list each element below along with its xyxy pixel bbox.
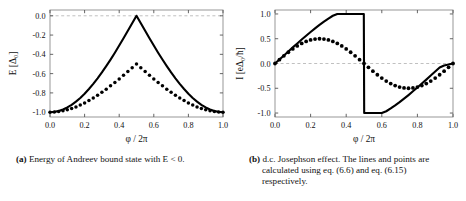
data-point [282, 54, 286, 58]
data-point [335, 42, 339, 46]
data-point [407, 86, 411, 90]
data-point [213, 110, 217, 114]
data-point [122, 74, 126, 78]
data-point [340, 44, 344, 48]
data-point [191, 103, 195, 107]
data-point [433, 76, 437, 80]
captions-row: (a) Energy of Andreev bound state with E… [0, 150, 466, 201]
data-point [367, 65, 371, 69]
data-point [200, 107, 204, 111]
x-tick-label: 1.0 [448, 121, 458, 130]
x-tick-label: 0.8 [412, 121, 422, 130]
x-tick-label: 0.2 [305, 121, 315, 130]
caption-a: (a) Energy of Andreev bound state with E… [0, 150, 233, 201]
data-point [148, 74, 152, 78]
data-point [165, 87, 169, 91]
series-dotted-points [48, 62, 225, 114]
data-point [331, 40, 335, 44]
data-point [278, 58, 282, 62]
data-point [304, 40, 308, 44]
y-tick-label: -1.0 [33, 108, 46, 117]
data-point [349, 50, 353, 54]
data-point [143, 70, 147, 74]
x-axis-title: φ / 2π [353, 134, 375, 144]
figure-container: 0.00.20.40.60.81.00.0-0.2-0.4-0.6-0.8-1.… [0, 0, 466, 201]
data-point [221, 110, 225, 114]
data-point [83, 101, 87, 105]
data-point [79, 103, 83, 107]
y-axis-title: E [Δ₀] [8, 52, 18, 76]
data-point [451, 62, 455, 66]
data-point [156, 81, 160, 85]
data-point [344, 47, 348, 51]
data-point [53, 110, 57, 114]
data-point [109, 84, 113, 88]
data-point [322, 37, 326, 41]
y-axis-title: I [eΔ₀/ħ] [235, 47, 245, 79]
caption-a-text: Energy of Andreev bound state with E < 0… [29, 154, 185, 164]
data-point [318, 37, 322, 41]
data-point [187, 101, 191, 105]
plot-panels: 0.00.20.40.60.81.00.0-0.2-0.4-0.6-0.8-1.… [0, 0, 466, 150]
x-tick-label: 0.0 [270, 121, 280, 130]
andreev-energy-chart: 0.00.20.40.60.81.00.0-0.2-0.4-0.6-0.8-1.… [0, 0, 233, 150]
x-axis-title: φ / 2π [125, 134, 147, 144]
x-tick-label: 0.4 [341, 121, 351, 130]
caption-b: (b) d.c. Josephson effect. The lines and… [233, 150, 466, 201]
x-tick-label: 0.4 [114, 121, 124, 130]
x-tick-label: 0.6 [377, 121, 387, 130]
data-point [375, 73, 379, 77]
y-tick-label: 0.0 [35, 12, 45, 21]
x-tick-label: 0.0 [45, 121, 55, 130]
panel-b-current-plot: 0.00.20.40.60.81.01.00.50.0-0.5-1.0φ / 2… [233, 0, 466, 150]
data-point [429, 79, 433, 83]
data-point [195, 105, 199, 109]
data-point [273, 62, 277, 66]
data-point [380, 76, 384, 80]
data-point [100, 91, 104, 95]
caption-b-text: d.c. Josephson effect. The lines and poi… [262, 154, 429, 186]
y-tick-label: 0.5 [260, 35, 270, 44]
josephson-current-chart: 0.00.20.40.60.81.01.00.50.0-0.5-1.0φ / 2… [233, 0, 466, 150]
data-point [295, 44, 299, 48]
x-tick-label: 0.8 [183, 121, 193, 130]
y-tick-label: -0.8 [33, 89, 46, 98]
data-point [48, 110, 52, 114]
caption-a-label: (a) [16, 154, 27, 164]
data-point [204, 108, 208, 112]
data-point [447, 65, 451, 69]
data-point [309, 38, 313, 42]
x-tick-label: 1.0 [218, 121, 228, 130]
data-point [442, 69, 446, 73]
data-point [313, 37, 317, 41]
data-point [61, 109, 64, 113]
data-point [389, 82, 393, 86]
data-point [420, 84, 424, 88]
data-point [353, 54, 357, 58]
data-point [438, 73, 442, 77]
data-point [161, 84, 165, 88]
data-point [371, 69, 375, 73]
data-point [398, 85, 402, 89]
data-point [411, 86, 415, 90]
data-point [96, 94, 100, 98]
y-tick-label: 0.0 [260, 60, 270, 69]
data-point [393, 84, 397, 88]
data-point [66, 108, 70, 112]
data-point [300, 42, 304, 46]
data-point [182, 99, 186, 103]
data-point [92, 96, 96, 100]
data-point [178, 96, 182, 100]
data-point [402, 86, 406, 90]
data-point [169, 91, 173, 95]
data-point [74, 105, 78, 109]
data-point [208, 109, 212, 113]
data-point [416, 85, 420, 89]
data-point [217, 110, 221, 114]
data-point [424, 82, 428, 86]
y-tick-label: -0.4 [33, 50, 46, 59]
y-tick-label: 1.0 [260, 10, 270, 19]
data-point [139, 66, 143, 70]
data-point [286, 50, 290, 54]
data-point [152, 77, 156, 81]
